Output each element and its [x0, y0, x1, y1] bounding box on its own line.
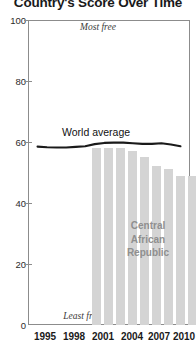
y-tick-label-40: 40	[0, 198, 26, 209]
x-tick-label-2004: 2004	[121, 331, 143, 342]
x-tick-label-1998: 1998	[63, 331, 85, 342]
bar-2009	[188, 176, 196, 325]
world-average-label: World average	[62, 126, 130, 138]
x-tick-label-2007: 2007	[148, 331, 170, 342]
x-tick-label-2010: 2010	[173, 331, 195, 342]
bar-2001	[92, 148, 101, 325]
x-tick-label-2001: 2001	[92, 331, 114, 342]
y-tick-label-20: 20	[0, 259, 26, 270]
y-tick-label-0: 0	[0, 320, 26, 331]
x-tick-label-1995: 1995	[34, 331, 56, 342]
country-label: Central African Republic	[110, 219, 186, 260]
country-label-line-2: African	[110, 233, 186, 247]
y-tick-label-60: 60	[0, 137, 26, 148]
country-label-line-1: Central	[110, 219, 186, 233]
chart-container: Country's Score Over Time 100 80 60 40 2…	[0, 0, 196, 348]
country-label-line-3: Republic	[110, 246, 186, 260]
bar-series-central-african-republic	[28, 20, 190, 325]
chart-title: Country's Score Over Time	[0, 0, 196, 10]
y-tick-label-80: 80	[0, 76, 26, 87]
